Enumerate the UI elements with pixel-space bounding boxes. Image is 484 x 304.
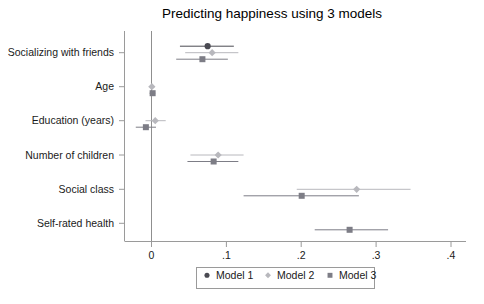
legend-label-1: Model 1 bbox=[216, 269, 254, 281]
x-tick-label-4: .4 bbox=[447, 249, 456, 261]
y-axis-label-education: Education (years) bbox=[32, 114, 114, 126]
y-axis-label-children: Number of children bbox=[25, 149, 114, 161]
point-self-rated-health-model-3 bbox=[347, 227, 353, 233]
legend-marker-circle-icon bbox=[204, 273, 209, 278]
point-social-class-model-3 bbox=[299, 193, 305, 199]
legend-label-3: Model 3 bbox=[339, 269, 377, 281]
coefficient-plot-figure: Predicting happiness using 3 models Soci… bbox=[0, 0, 484, 304]
legend-marker-square-icon bbox=[328, 273, 333, 278]
point-number-of-children-model-3 bbox=[211, 159, 217, 165]
x-tick-label-0: 0 bbox=[149, 249, 155, 261]
x-tick-label-3: .3 bbox=[372, 249, 381, 261]
point-age-model-2 bbox=[148, 83, 155, 90]
point-education-years-model-3 bbox=[143, 124, 149, 130]
point-number-of-children-model-2 bbox=[215, 151, 222, 158]
y-axis-label-health: Self-rated health bbox=[37, 217, 114, 229]
point-social-class-model-2 bbox=[353, 186, 360, 193]
chart-canvas: Socializing with friends Age Education (… bbox=[0, 0, 484, 304]
point-socializing-with-friends-model-1 bbox=[205, 43, 211, 49]
x-tick-label-1: .1 bbox=[222, 249, 231, 261]
legend: Model 1Model 2Model 3 bbox=[197, 268, 377, 289]
x-axis-ticks bbox=[152, 242, 452, 248]
y-axis-ticks bbox=[119, 53, 125, 224]
legend-label-2: Model 2 bbox=[277, 269, 315, 281]
point-education-years-model-2 bbox=[152, 117, 159, 124]
point-socializing-with-friends-model-3 bbox=[199, 56, 205, 62]
y-axis-label-age: Age bbox=[95, 80, 114, 92]
point-socializing-with-friends-model-2 bbox=[209, 49, 216, 56]
point-age-model-3 bbox=[150, 90, 156, 96]
y-axis-label-social-class: Social class bbox=[59, 183, 114, 195]
data-points-layer bbox=[136, 43, 411, 233]
x-tick-label-2: .2 bbox=[297, 249, 306, 261]
y-axis-label-socializing: Socializing with friends bbox=[8, 46, 114, 58]
legend-entries: Model 1Model 2Model 3 bbox=[204, 269, 376, 281]
